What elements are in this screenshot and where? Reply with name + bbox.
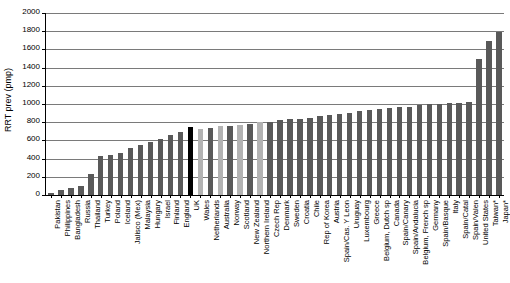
y-tick-label: 400 (27, 153, 40, 162)
x-tick-mark (81, 195, 82, 198)
x-axis-tick-label: Bangladesh (74, 200, 82, 240)
x-tick-mark (61, 195, 62, 198)
y-tick-label: 2000 (22, 7, 40, 16)
x-tick-mark (390, 195, 391, 198)
x-axis-tick-label: Spain/Catal (462, 200, 470, 239)
x-axis-labels: PakistanPhilippinesBangladeshRussiaThail… (46, 195, 504, 283)
x-tick-mark (101, 195, 102, 198)
bar (128, 148, 133, 195)
x-axis-tick-label: Croatia (303, 200, 311, 224)
y-tick-label: 1600 (22, 43, 40, 52)
x-tick-mark (71, 195, 72, 198)
x-axis-tick-label: Philippines (64, 200, 72, 236)
x-tick-mark (260, 195, 261, 198)
bar (178, 132, 183, 195)
x-tick-mark (161, 195, 162, 198)
x-axis-tick-label: Japan* (502, 200, 510, 223)
x-axis-tick-label: Russia (84, 200, 92, 223)
x-tick-mark (310, 195, 311, 198)
x-axis-tick-label: Wales (203, 200, 211, 221)
bar (357, 111, 362, 195)
bar (138, 145, 143, 195)
x-axis-tick-label: England (183, 200, 191, 228)
x-axis-tick-label: Austria (333, 200, 341, 223)
x-axis-tick-label: Sweden (293, 200, 301, 227)
plot-area (46, 13, 504, 195)
x-tick-mark (380, 195, 381, 198)
x-axis-tick-label: New Zealand (253, 200, 261, 244)
x-axis-tick-label: Spain/Andalucia (412, 200, 420, 254)
bar (496, 32, 501, 195)
x-axis-tick-label: Poland (114, 200, 122, 223)
x-tick-mark (459, 195, 460, 198)
x-tick-mark (151, 195, 152, 198)
bar (237, 125, 242, 195)
rrt-prevalence-bar-chart: RRT prev (pmp) 0200400600800100012001400… (0, 0, 510, 283)
x-tick-mark (180, 195, 181, 198)
y-axis-ticks: 0200400600800100012001400160018002000 (0, 13, 46, 195)
bar (337, 114, 342, 195)
bar (227, 126, 232, 195)
x-axis-tick-label: Italy (452, 200, 460, 214)
x-tick-mark (210, 195, 211, 198)
y-tick-label: 200 (27, 171, 40, 180)
x-tick-mark (111, 195, 112, 198)
bar (277, 120, 282, 195)
bar (118, 153, 123, 195)
bar (317, 116, 322, 195)
x-axis-tick-label: Turkey (104, 200, 112, 223)
x-tick-mark (479, 195, 480, 198)
x-axis-tick-label: Denmark (283, 200, 291, 230)
x-tick-mark (330, 195, 331, 198)
bar (188, 127, 193, 195)
y-tick-label: 800 (27, 116, 40, 125)
bar (327, 115, 332, 195)
bar (247, 124, 252, 195)
x-axis-tick-label: Scotland (243, 200, 251, 229)
bar (218, 126, 223, 195)
bar (347, 113, 352, 195)
bar (267, 122, 272, 195)
x-axis-tick-label: Spain/Cas. Y Leon (343, 200, 351, 262)
x-tick-mark (91, 195, 92, 198)
x-tick-mark (290, 195, 291, 198)
bar (88, 174, 93, 195)
x-axis-tick-label: Spain/Canary (402, 200, 410, 245)
x-tick-mark (270, 195, 271, 198)
bar (108, 155, 113, 195)
y-tick-label: 1000 (22, 98, 40, 107)
x-tick-mark (360, 195, 361, 198)
bar (466, 102, 471, 195)
x-axis-tick-label: Finland (173, 200, 181, 225)
x-tick-mark (429, 195, 430, 198)
bar-series (46, 13, 504, 195)
bar (427, 104, 432, 195)
x-tick-mark (350, 195, 351, 198)
x-tick-mark (499, 195, 500, 198)
x-axis-tick-label: Spain/Basque (442, 200, 450, 247)
x-axis-tick-label: Luxembourg (363, 200, 371, 242)
x-axis-tick-label: Australia (223, 200, 231, 229)
bar (158, 139, 163, 195)
bar (387, 108, 392, 195)
x-tick-mark (469, 195, 470, 198)
x-axis-tick-label: Norway (233, 200, 241, 225)
x-axis-tick-label: Uruguay (353, 200, 361, 228)
bar (297, 119, 302, 195)
x-tick-mark (170, 195, 171, 198)
y-tick-label: 1400 (22, 62, 40, 71)
bar (437, 104, 442, 195)
x-axis-tick-label: Israel (164, 200, 172, 218)
x-tick-mark (250, 195, 251, 198)
x-axis-tick-label: Canada (393, 200, 401, 226)
x-axis-tick-label: Czech Rep (273, 200, 281, 237)
bar (397, 107, 402, 195)
x-tick-mark (300, 195, 301, 198)
bar (148, 142, 153, 195)
bar (198, 129, 203, 195)
x-axis-tick-label: Hungary (154, 200, 162, 228)
x-axis-tick-label: Pakistan (54, 200, 62, 229)
x-tick-mark (141, 195, 142, 198)
x-tick-mark (240, 195, 241, 198)
bar (98, 156, 103, 195)
